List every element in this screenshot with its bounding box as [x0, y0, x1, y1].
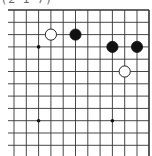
black-stone: [107, 41, 118, 52]
star-point: [111, 119, 115, 123]
go-board: [0, 0, 152, 156]
white-stone: [119, 66, 130, 77]
white-stone: [45, 29, 56, 40]
star-point: [37, 119, 41, 123]
stones: [45, 29, 142, 77]
black-stone: [131, 41, 142, 52]
black-stone: [70, 29, 81, 40]
star-point: [37, 45, 41, 49]
